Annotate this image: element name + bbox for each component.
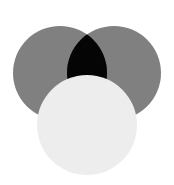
venn-diagram — [0, 0, 174, 185]
bottom-circle — [37, 75, 137, 175]
figure-root — [0, 0, 174, 185]
